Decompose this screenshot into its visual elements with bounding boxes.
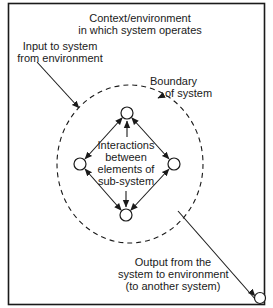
interactions-label: Interactions between elements of sub-sys… bbox=[86, 139, 166, 187]
output-label-line1: Output from the bbox=[118, 256, 228, 268]
node-bottom bbox=[120, 209, 132, 221]
input-arrow bbox=[37, 62, 79, 108]
boundary-label-line1: Boundary bbox=[150, 75, 212, 87]
context-label-line2: in which system operates bbox=[70, 24, 210, 36]
output-label-line3: (to another system) bbox=[118, 280, 228, 292]
interactions-label-line1: Interactions bbox=[86, 139, 166, 151]
boundary-label: Boundary of system bbox=[150, 75, 212, 99]
boundary-label-line2: of system bbox=[150, 87, 212, 99]
interactions-label-line4: sub-system bbox=[86, 175, 166, 187]
input-label-line1: Input to system bbox=[17, 40, 103, 52]
interactions-label-line2: between bbox=[86, 151, 166, 163]
node-top bbox=[121, 107, 133, 119]
input-label: Input to system from environment bbox=[17, 40, 103, 64]
context-label-line1: Context/environment bbox=[70, 12, 210, 24]
output-label-line2: system to environment bbox=[118, 268, 228, 280]
node-external-system bbox=[255, 293, 266, 304]
node-right bbox=[168, 158, 180, 170]
interactions-label-line3: elements of bbox=[86, 163, 166, 175]
output-label: Output from the system to environment (t… bbox=[118, 256, 228, 292]
context-label: Context/environment in which system oper… bbox=[70, 12, 210, 36]
node-left bbox=[74, 158, 86, 170]
input-label-line2: from environment bbox=[17, 52, 103, 64]
